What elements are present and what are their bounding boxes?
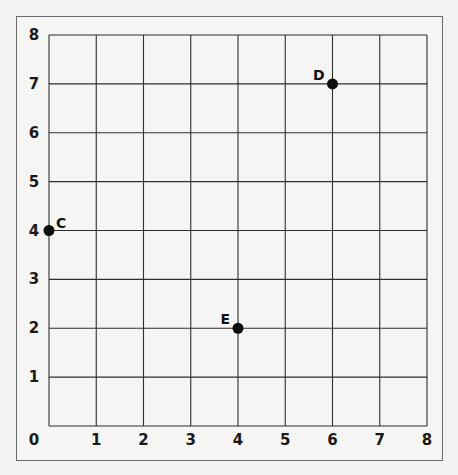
point-label: D (313, 67, 325, 83)
y-tick-label: 8 (29, 26, 39, 44)
point-label: C (56, 215, 66, 231)
data-point-e: E (220, 311, 243, 334)
x-tick-label: 3 (186, 431, 196, 449)
x-tick-label: 1 (91, 431, 101, 449)
x-tick-label: 8 (422, 431, 432, 449)
point-marker (233, 323, 244, 334)
x-tick-label: 5 (280, 431, 290, 449)
y-tick-label: 5 (29, 173, 39, 191)
x-tick-label: 7 (375, 431, 385, 449)
point-marker (44, 225, 55, 236)
y-axis-tick-labels: 12345678 (29, 26, 39, 386)
x-tick-label: 2 (138, 431, 148, 449)
y-tick-label: 6 (29, 124, 39, 142)
data-point-c: C (44, 215, 67, 237)
y-tick-label: 4 (29, 222, 39, 240)
x-tick-label: 6 (327, 431, 337, 449)
point-marker (327, 78, 338, 89)
coordinate-grid-chart: 012345678 12345678 CDE (0, 0, 458, 475)
grid-lines (49, 35, 427, 426)
point-label: E (220, 311, 230, 327)
y-tick-label: 1 (29, 368, 39, 386)
x-axis-tick-labels: 012345678 (29, 431, 432, 449)
data-point-d: D (313, 67, 338, 90)
x-tick-label: 0 (29, 431, 39, 449)
x-tick-label: 4 (233, 431, 243, 449)
y-tick-label: 7 (29, 75, 39, 93)
y-tick-label: 2 (29, 319, 39, 337)
y-tick-label: 3 (29, 270, 39, 288)
